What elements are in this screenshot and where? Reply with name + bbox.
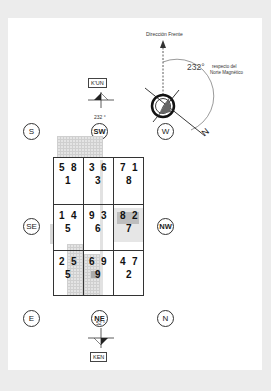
cell-1-water: 8 [71,162,77,173]
direction-se: SE [23,218,40,235]
cell-9-water: 7 [132,256,138,267]
kun-label: K'UN [88,78,107,88]
cell-5-base: 6 [95,223,101,234]
direction-nw: NW [157,218,174,235]
cell-1-base: 1 [65,175,71,186]
cell-3-base: 8 [126,175,132,186]
direction-n: N [157,310,174,327]
cell-8-base: 9 [95,269,101,280]
cell-7-base: 5 [65,269,71,280]
ken-trigram-icon [86,326,116,350]
front-direction-label: Dirección Frente [146,31,183,37]
cell-6-mountain: 8 [120,210,126,221]
direction-e: E [23,310,40,327]
cell-7-water: 5 [71,256,77,267]
cell-9-mountain: 4 [120,256,126,267]
hatched-terrace [57,136,103,157]
kun-trigram-icon [86,90,116,110]
ken-label: KEN [90,352,107,362]
cell-8-mountain: 6 [89,256,95,267]
cell-4-water: 4 [71,210,77,221]
cell-4-mountain: 1 [59,210,65,221]
cell-3-water: 1 [132,162,138,173]
direction-s: S [23,123,40,140]
cell-3-mountain: 7 [120,162,126,173]
cell-9-base: 2 [126,269,132,280]
compass-icon [135,38,225,138]
cell-6-water: 2 [132,210,138,221]
cell-2-base: 3 [95,175,101,186]
kun-degrees: 232 ° [94,114,106,120]
cell-7-mountain: 2 [59,256,65,267]
cell-1-mountain: 5 [59,162,65,173]
direction-w: W [157,123,174,140]
cell-5-mountain: 9 [89,210,95,221]
reference-label-2: Norte Magnético [210,70,243,75]
cell-4-base: 5 [65,223,71,234]
cell-2-water: 6 [101,162,107,173]
cell-2-mountain: 3 [89,162,95,173]
cell-6-base: 7 [126,223,132,234]
reference-label-1: respecto del [212,64,237,69]
cell-8-water: 9 [101,256,107,267]
angle-label: 232° [187,62,205,72]
cell-5-water: 3 [101,210,107,221]
